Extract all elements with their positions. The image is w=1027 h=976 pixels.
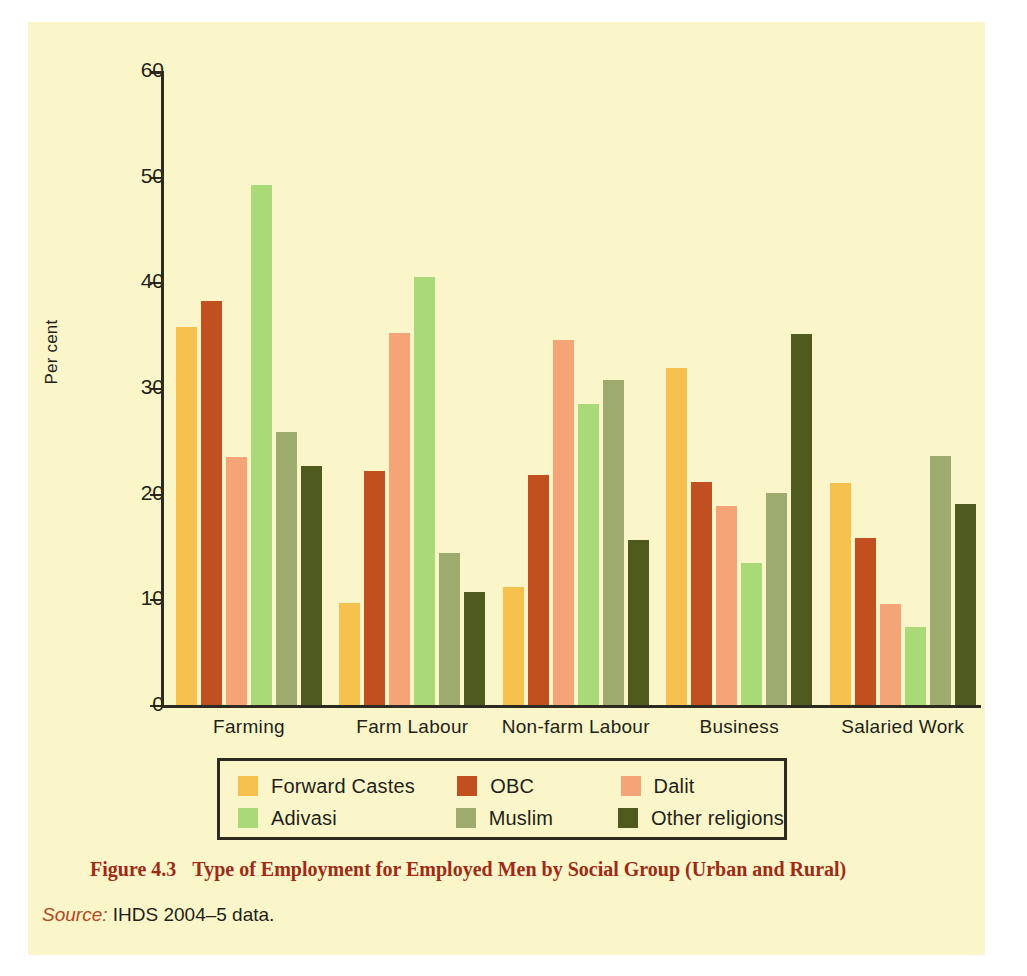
bar (691, 482, 712, 705)
legend-row: Forward CastesOBCDalit (238, 770, 784, 802)
legend-item: Forward Castes (238, 775, 457, 798)
y-axis-tick-label: 0 (110, 692, 164, 716)
bar (578, 404, 599, 705)
bar (201, 301, 222, 705)
bar (855, 538, 876, 705)
bar (791, 334, 812, 705)
chart-legend: Forward CastesOBCDalitAdivasiMuslimOther… (217, 758, 787, 840)
figure-number: Figure 4.3 (90, 858, 176, 880)
bar (503, 587, 524, 705)
bar (766, 493, 787, 705)
y-axis-tick-label: 10 (110, 586, 164, 610)
legend-swatch (238, 776, 258, 796)
bar (439, 553, 460, 705)
figure-panel: Per cent 0102030405060 FarmingFarm Labou… (28, 22, 985, 955)
x-axis-line (161, 705, 981, 708)
legend-swatch (238, 808, 258, 828)
bar (339, 603, 360, 705)
bar (528, 475, 549, 705)
legend-label: Muslim (489, 807, 554, 830)
legend-swatch (456, 808, 476, 828)
bar (830, 483, 851, 705)
bar-group (327, 71, 490, 705)
bar-group (491, 71, 654, 705)
bar-group (654, 71, 817, 705)
bar (553, 340, 574, 705)
bar (603, 380, 624, 705)
legend-item: Muslim (456, 807, 618, 830)
source-text: IHDS 2004–5 data. (113, 904, 275, 925)
bar (930, 456, 951, 705)
bar (905, 627, 926, 705)
bar-group (164, 71, 327, 705)
legend-item: Dalit (621, 775, 784, 798)
bar (666, 368, 687, 705)
y-axis-label: Per cent (42, 292, 62, 412)
legend-row: AdivasiMuslimOther religions (238, 802, 784, 834)
bar (414, 277, 435, 705)
x-axis-label: Salaried Work (803, 716, 1003, 738)
legend-label: Adivasi (271, 807, 337, 830)
figure-caption: Figure 4.3Type of Employment for Employe… (90, 858, 846, 881)
bar (276, 432, 297, 705)
bar (301, 466, 322, 705)
figure-caption-text: Type of Employment for Employed Men by S… (192, 858, 846, 880)
legend-item: Other religions (618, 807, 784, 830)
y-axis-tick-label: 40 (110, 269, 164, 293)
y-axis-tick-label: 50 (110, 164, 164, 188)
bar (741, 563, 762, 705)
bar (716, 506, 737, 705)
bar (364, 471, 385, 705)
legend-label: OBC (490, 775, 534, 798)
legend-label: Forward Castes (271, 775, 415, 798)
legend-swatch (618, 808, 638, 828)
bar (628, 540, 649, 705)
bar (176, 327, 197, 705)
legend-label: Dalit (654, 775, 695, 798)
bar-group (818, 71, 981, 705)
y-axis-tick-label: 20 (110, 481, 164, 505)
chart-plot-area: Per cent 0102030405060 FarmingFarm Labou… (28, 22, 985, 737)
bar (389, 333, 410, 705)
legend-label: Other religions (651, 807, 784, 830)
legend-swatch (621, 776, 641, 796)
legend-item: OBC (457, 775, 620, 798)
y-axis-tick-label: 60 (110, 58, 164, 82)
source-label: Source: (42, 904, 107, 925)
bar (955, 504, 976, 705)
bar (226, 457, 247, 705)
bar (251, 185, 272, 705)
figure-source: Source: IHDS 2004–5 data. (42, 904, 274, 926)
bars-container (164, 71, 981, 705)
bar (880, 604, 901, 705)
bar (464, 592, 485, 705)
y-axis-tick-label: 30 (110, 375, 164, 399)
legend-item: Adivasi (238, 807, 456, 830)
legend-swatch (457, 776, 477, 796)
